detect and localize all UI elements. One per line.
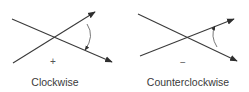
counterclockwise-diagram	[138, 14, 237, 61]
clockwise-label: Clockwise	[31, 76, 78, 88]
positive-sign: +	[50, 56, 56, 67]
line-b	[140, 19, 234, 56]
counterclockwise-rotation-arrow-icon	[213, 26, 217, 47]
clockwise-rotation-arrow-icon	[85, 24, 91, 50]
clockwise-diagram	[12, 12, 112, 63]
counterclockwise-label: Counterclockwise	[147, 76, 229, 88]
line-a	[12, 19, 112, 62]
negative-sign: −	[180, 57, 186, 68]
